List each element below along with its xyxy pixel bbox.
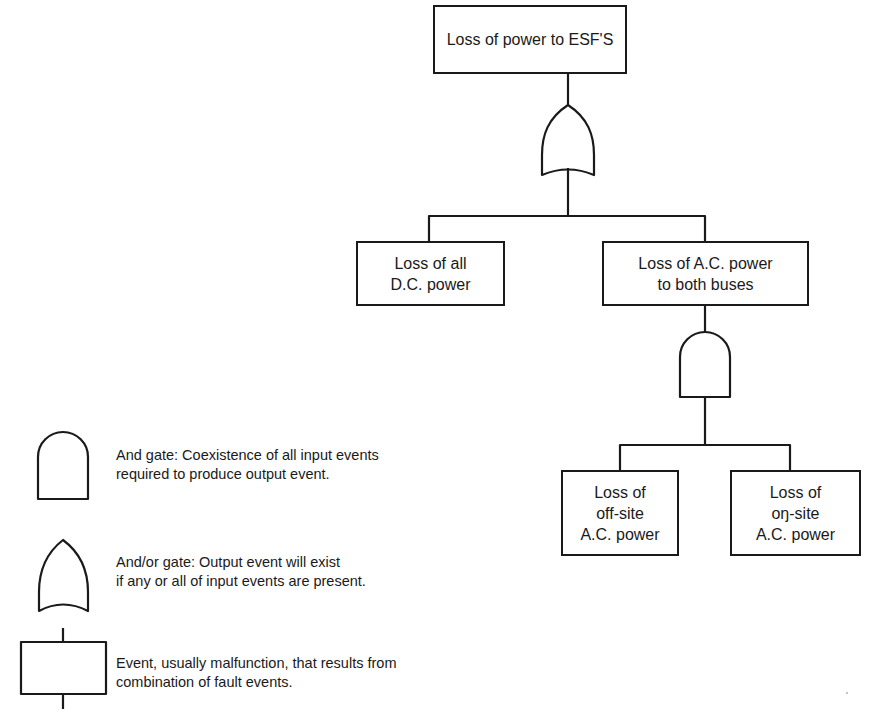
legend-or-gate-text: And/or gate: Output event will exist if … <box>116 553 366 591</box>
event-label-onsite-ac: Loss of oŋ-site A.C. power <box>756 482 835 545</box>
event-box-offsite-ac: Loss of off-site A.C. power <box>561 470 679 556</box>
legend-event-box-icon <box>21 642 106 694</box>
connector-or-branches <box>429 216 705 241</box>
event-box-ac-power-both-buses: Loss of A.C. power to both buses <box>602 241 809 306</box>
legend-or-gate-icon <box>39 540 88 611</box>
fault-tree-lines <box>0 0 887 728</box>
event-label-ac-power-both-buses: Loss of A.C. power to both buses <box>638 253 772 295</box>
connector-and-branches <box>620 445 790 470</box>
legend-event-text: Event, usually malfunction, that results… <box>116 654 396 692</box>
legend-and-gate-text: And gate: Coexistence of all input event… <box>116 446 379 484</box>
and-gate-icon <box>680 332 730 397</box>
top-event-label: Loss of power to ESF'S <box>447 29 614 50</box>
or-gate-icon <box>542 105 594 175</box>
stray-dot <box>846 692 848 694</box>
event-box-onsite-ac: Loss of oŋ-site A.C. power <box>730 470 861 556</box>
event-box-dc-power: Loss of all D.C. power <box>356 241 505 306</box>
legend-and-gate-icon <box>38 432 88 499</box>
event-label-dc-power: Loss of all D.C. power <box>390 253 470 295</box>
event-label-offsite-ac: Loss of off-site A.C. power <box>580 482 659 545</box>
top-event-box: Loss of power to ESF'S <box>433 5 627 74</box>
